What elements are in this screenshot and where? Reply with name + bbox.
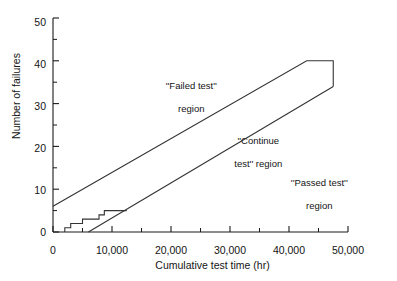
data-series-group [53, 61, 333, 232]
chart-canvas [0, 0, 397, 281]
series-line-2 [65, 211, 127, 232]
series-line-0 [53, 61, 333, 207]
axes-group [53, 18, 348, 232]
y-tick-marks [53, 18, 59, 232]
chart-figure: Number of failures Cumulative test time … [0, 0, 397, 281]
